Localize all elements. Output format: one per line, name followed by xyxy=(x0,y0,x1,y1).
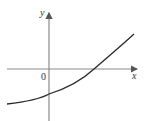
y-axis-label: y xyxy=(39,7,45,18)
x-axis-label: x xyxy=(131,70,137,81)
origin-label: 0 xyxy=(41,71,46,82)
function-graph: y x 0 xyxy=(0,0,148,121)
